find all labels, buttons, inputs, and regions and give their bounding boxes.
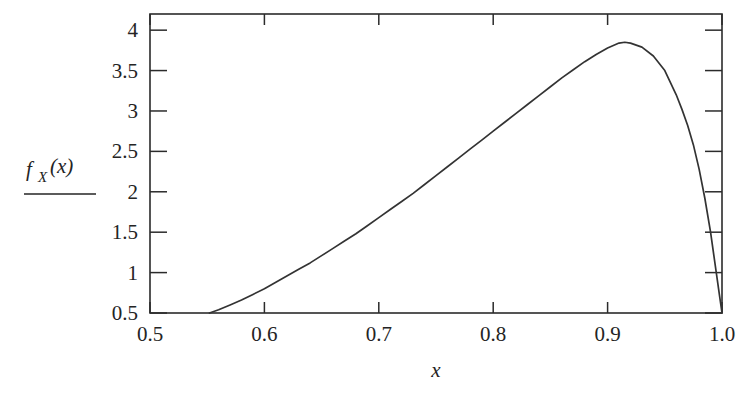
x-tick-label-0.9: 0.9	[594, 322, 620, 346]
probability-density-plot[interactable]: 0.50.60.70.80.91.0 0.511.522.533.54 f X …	[0, 0, 754, 395]
y-axis-title: f X (x)	[24, 154, 96, 194]
y-tick-label-2.5: 2.5	[112, 139, 138, 163]
x-tick-label-1.0: 1.0	[709, 322, 735, 346]
plot-frame	[150, 14, 722, 313]
y-axis-title-f: f	[26, 157, 35, 181]
x-tick-label-0.5: 0.5	[137, 322, 163, 346]
y-tick-label-1: 1	[128, 261, 139, 285]
y-tick-label-2: 2	[128, 180, 139, 204]
y-tick-label-0.5: 0.5	[112, 301, 138, 325]
x-axis-top-ticks	[150, 14, 722, 25]
y-tick-label-1.5: 1.5	[112, 220, 138, 244]
x-axis-bottom-ticks	[150, 302, 722, 313]
figure-container: 0.50.60.70.80.91.0 0.511.522.533.54 f X …	[0, 0, 754, 395]
y-tick-label-3.5: 3.5	[112, 59, 138, 83]
y-axis-title-subscript: X	[37, 169, 48, 185]
y-tick-label-3: 3	[128, 99, 139, 123]
y-axis-title-arg: (x)	[50, 154, 73, 178]
y-tick-label-4: 4	[128, 18, 139, 42]
x-axis-title: x	[430, 358, 441, 382]
y-axis-left-ticks	[150, 30, 167, 313]
density-curve-0	[209, 42, 722, 313]
y-axis-right-ticks	[705, 30, 722, 313]
x-axis-tick-labels: 0.50.60.70.80.91.0	[137, 322, 735, 346]
x-tick-label-0.6: 0.6	[251, 322, 277, 346]
x-tick-label-0.7: 0.7	[366, 322, 392, 346]
y-axis-tick-labels: 0.511.522.533.54	[112, 18, 139, 325]
density-curve-group	[209, 42, 722, 313]
x-tick-label-0.8: 0.8	[480, 322, 506, 346]
